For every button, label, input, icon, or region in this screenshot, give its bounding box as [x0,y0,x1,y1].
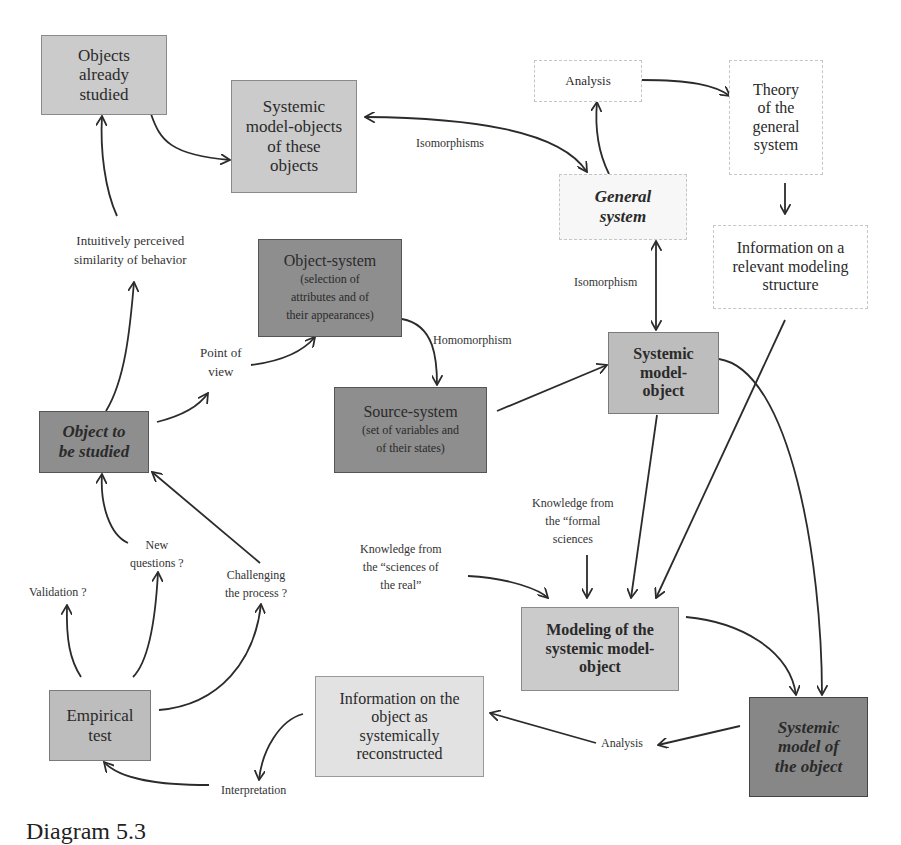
label-challenging: Challenging the process ? [225,566,287,602]
label-knowledge-real: Knowledge from the “sciences of the real… [360,540,442,594]
arrow-general-to-analysis [596,102,609,174]
label-interpretation: Interpretation [221,781,286,799]
arrow-empirical-to-challenging [159,604,261,710]
arrow-empirical-to-questions [133,572,158,677]
box-info-object-reconstructed: Information on theobject assystemicallyr… [315,676,484,777]
box-general-system: Generalsystem [559,174,687,240]
figure-caption: Diagram 5.3 [26,818,146,845]
box-systemic-model-of-object: Systemicmodel ofthe object [749,697,868,797]
arrow-questions-to-object [102,474,128,543]
arrow-real-to-modeling [468,576,548,598]
arrow-modeling-to-model-of-object [686,617,796,695]
box-object-to-be-studied: Object tobe studied [39,411,149,473]
box-systemic-model-object: Systemicmodel-object [608,332,719,414]
arrow-similarity-to-studied [102,116,117,216]
box-empirical-test: Empiricaltest [49,690,151,761]
box-theory-general-system: Theoryof thegeneralsystem [729,60,823,175]
label-new-questions: New questions ? [130,536,184,572]
label-isomorphisms: Isomorphisms [416,134,484,152]
label-homomorphism: Homomorphism [433,331,512,349]
arrow-analysis-to-theory [642,80,730,96]
box-source-system: Source-system (set of variables and of t… [334,387,487,473]
box-modeling-systemic-model-object: Modeling of thesystemic model-object [521,607,679,691]
arrow-model-object-to-model-of-object [719,359,822,695]
arrow-interpretation-to-empirical [104,762,209,785]
arrow-model-object-to-modeling [631,415,657,598]
box-systemic-model-objects: Systemicmodel-objectsof theseobjects [231,80,357,193]
arrow-object-to-similarity [106,282,134,411]
arrow-object-to-pov [157,393,208,422]
arrow-object-system-to-source [402,319,437,385]
box-info-modeling-structure: Information on arelevant modelingstructu… [713,225,868,309]
box-analysis-top: Analysis [534,60,642,102]
label-point-of-view: Point of view [200,344,242,382]
arrow-source-to-model-object [497,365,607,411]
label-validation: Validation ? [29,583,87,601]
arrow-studied-to-model-objects [151,114,230,160]
arrow-empirical-to-validation [67,605,81,677]
label-isomorphism: Isomorphism [574,273,637,291]
arrow-info-to-interpretation [259,714,303,780]
label-intuitive-similarity: Intuitively perceived similarity of beha… [74,232,187,270]
box-objects-already-studied: Objectsalreadystudied [41,35,167,115]
label-knowledge-formal: Knowledge from the “formal sciences [532,494,614,548]
arrow-model-of-object-to-analysis [658,726,740,745]
box-object-system: Object-system (selection of attributes a… [258,239,402,337]
arrow-pov-to-object-system [251,337,315,365]
label-analysis-bottom: Analysis [601,734,643,752]
arrow-analysis-to-info-reconstructed [490,713,596,743]
